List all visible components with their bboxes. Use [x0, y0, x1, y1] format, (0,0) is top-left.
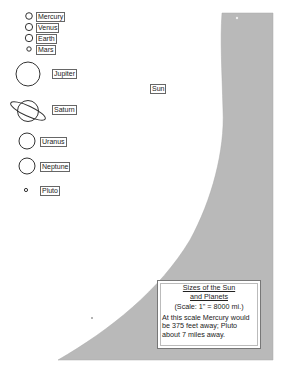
planet-label-earth: Earth	[36, 34, 57, 44]
planet-label-pluto: Pluto	[40, 186, 60, 196]
neptune-circle	[19, 158, 35, 174]
caption-title-line2: and Planets	[162, 293, 256, 302]
uranus-circle	[19, 133, 35, 149]
planet-label-neptune: Neptune	[40, 162, 70, 172]
planet-label-uranus: Uranus	[40, 137, 67, 147]
mars-circle	[27, 47, 31, 51]
sun-planets-diagram: Mercury Venus Earth Mars Jupiter Saturn …	[0, 0, 281, 369]
venus-circle	[25, 23, 32, 30]
planet-label-mercury: Mercury	[36, 12, 65, 22]
jupiter-circle	[16, 62, 40, 86]
planet-label-saturn: Saturn	[52, 105, 77, 115]
planet-label-jupiter: Jupiter	[52, 69, 77, 79]
earth-circle	[25, 34, 32, 41]
caption-scale: (Scale: 1" = 8000 mi.)	[162, 303, 256, 312]
planet-label-mars: Mars	[36, 45, 56, 55]
pluto-circle	[24, 188, 27, 191]
caption-box: Sizes of the Sun and Planets (Scale: 1" …	[157, 280, 261, 349]
planet-label-venus: Venus	[36, 23, 59, 33]
saturn-shape	[9, 98, 48, 123]
mercury-circle	[26, 13, 33, 20]
caption-body: At this scale Mercury would be 375 feet …	[162, 314, 256, 340]
sun-label: Sun	[150, 84, 166, 94]
